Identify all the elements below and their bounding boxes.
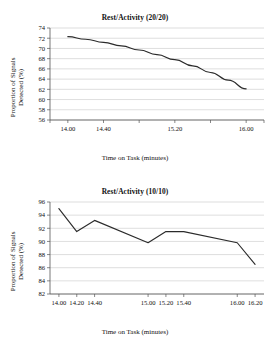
x-axis-label-top: Time on Task (minutes) bbox=[0, 154, 270, 162]
plot-area-bottom: 828486889092949614.0014.2014.4015.0015.2… bbox=[28, 198, 266, 313]
y-tick-label: 92 bbox=[38, 225, 45, 232]
y-axis-label-line1: Proportion of Signals bbox=[9, 57, 17, 117]
chart-panel-bottom: Rest/Activity (10/10) Proportion of Sign… bbox=[0, 174, 270, 348]
y-axis-label-line2: Detected (%) bbox=[17, 231, 25, 291]
y-tick-label: 74 bbox=[38, 24, 45, 31]
y-tick-label: 68 bbox=[38, 55, 45, 62]
x-tick-label: 15.20 bbox=[167, 125, 183, 132]
y-tick-label: 84 bbox=[38, 277, 45, 284]
x-tick-label: 14.40 bbox=[87, 299, 103, 306]
y-axis-label-bottom: Proportion of Signals Detected (%) bbox=[6, 174, 28, 348]
x-tick-label: 14.00 bbox=[51, 299, 67, 306]
y-tick-label: 94 bbox=[38, 211, 45, 218]
y-axis-label-line2: Detected (%) bbox=[17, 57, 25, 117]
y-tick-label: 96 bbox=[38, 198, 45, 205]
plot-area-top: 5658606264666870727414.0014.4015.2016.00 bbox=[28, 24, 266, 139]
y-tick-label: 90 bbox=[38, 238, 45, 245]
y-tick-label: 82 bbox=[38, 290, 45, 297]
x-tick-label: 15.00 bbox=[141, 299, 157, 306]
x-axis-label-bottom: Time on Task (minutes) bbox=[0, 328, 270, 336]
chart-title-bottom: Rest/Activity (10/10) bbox=[0, 187, 270, 196]
x-tick-label: 14.00 bbox=[60, 125, 76, 132]
y-tick-label: 86 bbox=[38, 264, 45, 271]
y-tick-label: 72 bbox=[38, 35, 45, 42]
data-series-line-bottom bbox=[59, 209, 255, 265]
y-tick-label: 60 bbox=[38, 96, 45, 103]
y-tick-label: 70 bbox=[38, 45, 45, 52]
x-tick-label: 16.20 bbox=[248, 299, 264, 306]
chart-panel-top: Rest/Activity (20/20) Proportion of Sign… bbox=[0, 0, 270, 174]
x-tick-label: 14.40 bbox=[96, 125, 112, 132]
y-tick-label: 88 bbox=[38, 251, 45, 258]
y-tick-label: 64 bbox=[38, 75, 45, 82]
y-tick-label: 66 bbox=[38, 65, 45, 72]
y-tick-label: 58 bbox=[38, 106, 45, 113]
y-axis-label-top: Proportion of Signals Detected (%) bbox=[6, 0, 28, 174]
y-tick-label: 62 bbox=[38, 86, 45, 93]
x-tick-label: 16.00 bbox=[239, 125, 255, 132]
chart-title-top: Rest/Activity (20/20) bbox=[0, 13, 270, 22]
x-tick-label: 16.00 bbox=[230, 299, 246, 306]
y-axis-label-line1: Proportion of Signals bbox=[9, 231, 17, 291]
x-tick-label: 15.20 bbox=[158, 299, 174, 306]
x-tick-label: 14.20 bbox=[69, 299, 85, 306]
y-tick-label: 56 bbox=[38, 116, 45, 123]
x-tick-label: 15.40 bbox=[176, 299, 192, 306]
data-series-line-top bbox=[68, 37, 246, 89]
